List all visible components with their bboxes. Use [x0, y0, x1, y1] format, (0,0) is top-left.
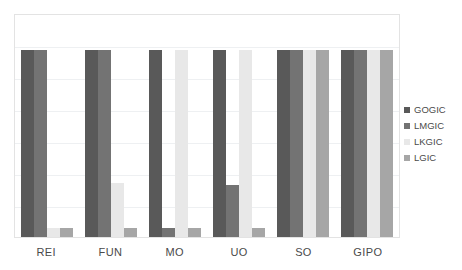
- bar: [85, 50, 98, 237]
- bar: [316, 50, 329, 237]
- x-tick-label: GIPO: [336, 240, 400, 258]
- bar: [21, 50, 34, 237]
- bars-layer: [15, 15, 399, 237]
- bar: [303, 50, 316, 237]
- bar-group: [21, 15, 73, 237]
- bar: [162, 228, 175, 237]
- bar: [380, 50, 393, 237]
- bar: [111, 183, 124, 237]
- x-tick-label: REI: [14, 240, 78, 258]
- bar: [341, 50, 354, 237]
- legend-swatch-icon: [404, 107, 410, 113]
- bar-group: [213, 15, 265, 237]
- bar: [98, 50, 111, 237]
- bar: [34, 50, 47, 237]
- bar-group: [341, 15, 393, 237]
- bar: [367, 50, 380, 237]
- x-tick-label: SO: [271, 240, 335, 258]
- bar-group: [277, 15, 329, 237]
- chart-legend: GOGICLMGICLKGICLGIC: [404, 104, 462, 164]
- legend-label: GOGIC: [414, 104, 446, 116]
- bar: [277, 50, 290, 237]
- bar: [149, 50, 162, 237]
- x-tick-label: UO: [207, 240, 271, 258]
- bar-group: [149, 15, 201, 237]
- x-axis-tick-labels: REIFUNMOUOSOGIPO: [14, 240, 400, 262]
- bar: [124, 228, 137, 237]
- legend-item[interactable]: LGIC: [404, 152, 462, 164]
- legend-item[interactable]: GOGIC: [404, 104, 462, 116]
- bar: [188, 228, 201, 237]
- x-tick-label: MO: [143, 240, 207, 258]
- bar: [252, 228, 265, 237]
- bar: [60, 228, 73, 237]
- bar: [47, 228, 60, 237]
- legend-item[interactable]: LKGIC: [404, 136, 462, 148]
- plot-area: [14, 14, 400, 238]
- bar: [290, 50, 303, 237]
- bar: [239, 50, 252, 237]
- legend-label: LMGIC: [414, 120, 444, 132]
- legend-swatch-icon: [404, 155, 410, 161]
- bar: [175, 50, 188, 237]
- x-tick-label: FUN: [78, 240, 142, 258]
- bar: [226, 185, 239, 237]
- legend-swatch-icon: [404, 123, 410, 129]
- legend-swatch-icon: [404, 139, 410, 145]
- bar: [354, 50, 367, 237]
- legend-item[interactable]: LMGIC: [404, 120, 462, 132]
- legend-label: LKGIC: [414, 136, 443, 148]
- bar: [213, 50, 226, 237]
- bar-chart: REIFUNMOUOSOGIPO GOGICLMGICLKGICLGIC: [0, 0, 462, 270]
- bar-group: [85, 15, 137, 237]
- legend-label: LGIC: [414, 152, 436, 164]
